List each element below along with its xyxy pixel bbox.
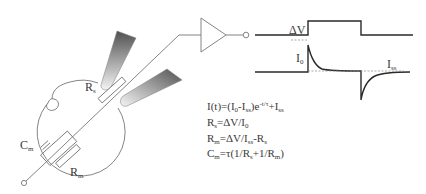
rs-label: Rs [85, 81, 96, 95]
delta-v-text: ΔV [289, 23, 305, 37]
iss-label: Iss [387, 58, 396, 72]
cm-label-main: C [20, 138, 28, 152]
ground-terminal [21, 180, 26, 185]
rm-label: Rm [70, 166, 83, 180]
amplifier-icon [201, 18, 249, 52]
eq4-e: +1/R [253, 147, 275, 159]
cm-rm-network [41, 131, 81, 168]
eq1-a: I(t)=(I [207, 100, 235, 112]
eq1-g: +I [268, 100, 278, 112]
i0-sub: 0 [300, 58, 304, 66]
eq4-g: ) [280, 147, 284, 159]
rm-label-main: R [70, 165, 78, 179]
eq3-e: -R [253, 132, 264, 144]
eq1-h: ss [278, 106, 283, 114]
pipette-right [120, 69, 182, 106]
iss-sub: ss [391, 64, 396, 72]
rm-label-sub: m [78, 172, 83, 180]
i0-label: I0 [296, 52, 304, 66]
eq3-c: =ΔV/I [220, 132, 248, 144]
eq3-f: s [264, 138, 267, 146]
equation-current-decay: I(t)=(I0-Iss)e-t/τ+Iss [207, 101, 284, 114]
eq2-c: =ΔV/I [217, 116, 245, 128]
patch-clamp-diagram [0, 0, 426, 194]
equation-membrane-capacitance: Cm=τ(1/Rs+1/Rm) [207, 148, 284, 161]
eq2-d: 0 [245, 122, 249, 130]
cm-label: Cm [20, 139, 33, 153]
current-transient-trace [255, 45, 410, 100]
cm-label-sub: m [28, 145, 33, 153]
voltage-step-trace [255, 21, 413, 35]
rs-label-sub: s [93, 87, 96, 95]
rs-label-main: R [85, 80, 93, 94]
equation-series-resistance: Rs=ΔV/I0 [207, 117, 249, 130]
eq4-c: =τ(1/R [220, 147, 250, 159]
equation-membrane-resistance: Rm=ΔV/Iss-Rs [207, 133, 267, 146]
delta-v-label: ΔV [289, 24, 305, 36]
